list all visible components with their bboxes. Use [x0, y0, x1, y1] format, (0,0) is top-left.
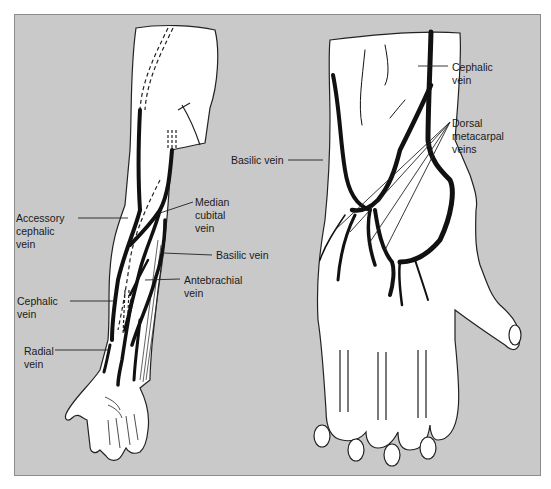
label-accessory-cephalic-vein: Accessory cephalic vein: [16, 212, 64, 251]
label-median-cubital-vein: Median cubital vein: [195, 196, 229, 235]
forearm-drawing: [65, 26, 217, 461]
label-cephalic-vein-forearm: Cephalic vein: [17, 295, 58, 321]
label-cephalic-vein-hand: Cephalic vein: [452, 61, 493, 87]
label-basilic-vein-forearm: Basilic vein: [216, 249, 269, 262]
hand-drawing: [314, 32, 521, 466]
label-antebrachial-vein: Antebrachial vein: [184, 274, 242, 300]
label-dorsal-metacarpal-veins: Dorsal metacarpal veins: [452, 117, 504, 156]
label-radial-vein: Radial vein: [24, 345, 54, 371]
label-basilic-vein-hand: Basilic vein: [231, 154, 284, 167]
